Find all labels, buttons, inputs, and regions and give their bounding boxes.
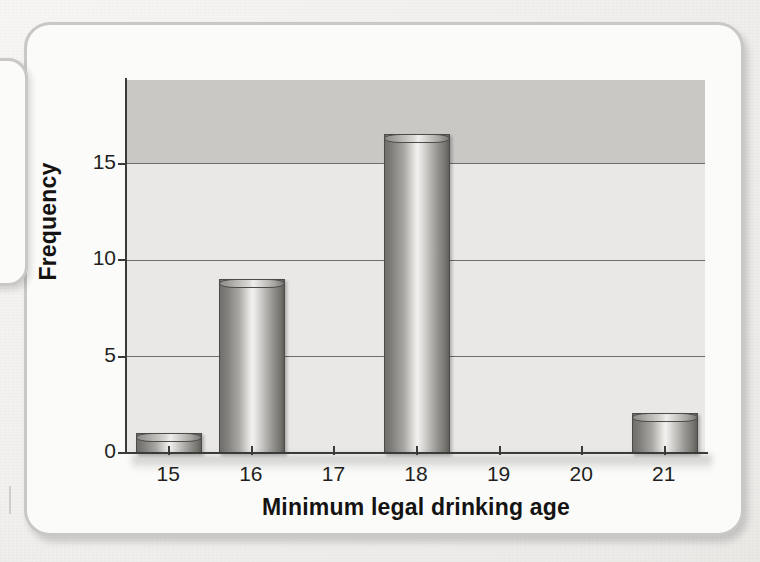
y-tick-label-0: 0 <box>76 439 116 463</box>
x-tick-label-15: 15 <box>138 462 198 486</box>
y-tick-10 <box>118 259 127 261</box>
bar-cap-21 <box>632 413 698 422</box>
y-tick-label-15: 15 <box>76 150 116 174</box>
y-tick-label-10: 10 <box>76 246 116 270</box>
bar-chart-figure: 051015 15161718192021 Frequency Minimum … <box>0 0 760 562</box>
x-tick-label-16: 16 <box>221 462 281 486</box>
x-axis-title: Minimum legal drinking age <box>127 494 705 521</box>
y-axis-line <box>125 78 127 454</box>
y-tick-15 <box>118 163 127 165</box>
bar-cap-18 <box>384 134 450 143</box>
x-tick-19 <box>499 446 501 455</box>
x-tick-label-17: 17 <box>303 462 363 486</box>
x-tick-18 <box>416 446 418 455</box>
y-tick-0 <box>118 452 127 454</box>
bar-16 <box>219 279 285 454</box>
y-axis-title: Frequency <box>35 122 62 322</box>
x-tick-15 <box>168 446 170 455</box>
x-tick-label-21: 21 <box>634 462 694 486</box>
x-tick-16 <box>251 446 253 455</box>
y-tick-5 <box>118 356 127 358</box>
x-tick-17 <box>333 446 335 455</box>
x-tick-20 <box>581 446 583 455</box>
y-tick-label-5: 5 <box>76 343 116 367</box>
x-tick-21 <box>664 446 666 455</box>
x-tick-label-18: 18 <box>386 462 446 486</box>
bar-cap-15 <box>136 433 202 442</box>
x-tick-label-20: 20 <box>551 462 611 486</box>
bar-18 <box>384 134 450 454</box>
bar-cap-16 <box>219 279 285 288</box>
x-tick-label-19: 19 <box>469 462 529 486</box>
scanned-page: 051015 15161718192021 Frequency Minimum … <box>0 0 760 562</box>
